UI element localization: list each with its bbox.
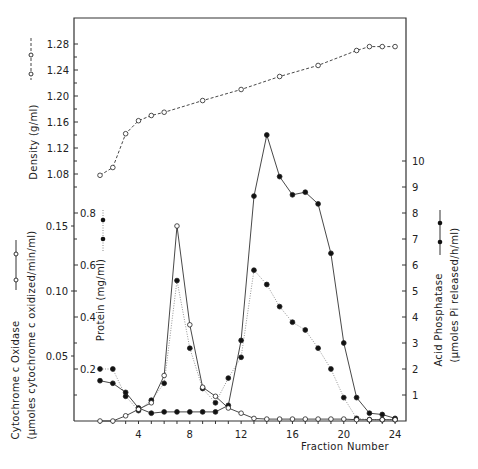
acid-phosphatase-marker [290,192,295,197]
density-marker [367,44,372,49]
acid-tick-label: 7 [412,234,418,245]
density-marker [98,173,103,178]
protein-tick-label: 0.6 [80,260,96,271]
cytochrome-marker [316,417,321,422]
cytochrome-marker [290,417,295,422]
cytochrome-marker [162,373,167,378]
protein-axis-title: Protein (mg/ml) [95,259,106,342]
protein-marker [226,376,231,381]
cytochrome-legend-marker [14,278,18,282]
x-tick-label: 12 [235,429,248,440]
plot-frame [74,18,406,421]
density-tick-label: 1.20 [47,91,69,102]
density-marker [149,113,154,118]
acid-phosphatase-marker [213,410,218,415]
density-marker [136,118,141,123]
cytochrome-marker [303,417,308,422]
protein-marker [213,400,218,405]
fractionation-chart: 48121620241.081.121.161.201.241.280.050.… [0,0,478,469]
density-marker [162,110,167,115]
acid-phosphatase-marker [329,251,334,256]
protein-line [100,270,395,420]
density-marker [239,87,244,92]
density-marker [111,165,116,170]
protein-marker [316,346,321,351]
plot-border [74,18,406,421]
acid-phosphatase-marker [303,190,308,195]
x-axis-title: Fraction Number [301,441,389,452]
acid-phosphatase-marker [123,390,128,395]
cytochrome-marker [239,411,244,416]
cytochrome-marker [329,417,334,422]
acid-phosphatase-line [100,135,395,418]
x-tick-label: 24 [389,429,402,440]
protein-marker [187,346,192,351]
acid-phosphatase-legend-marker [438,240,443,245]
density-line [100,47,395,176]
acid-phosphatase-marker [367,411,372,416]
density-tick-label: 1.28 [47,39,69,50]
cytochrome-marker [188,323,193,328]
density-legend-marker [29,72,33,76]
acid-phosphatase-marker [316,202,321,207]
chart-canvas: 48121620241.081.121.161.201.241.280.050.… [0,0,478,469]
protein-marker [329,367,334,372]
cytochrome-marker [213,394,218,399]
density-tick-label: 1.24 [47,65,69,76]
acid-tick-label: 4 [412,312,418,323]
protein-legend-marker [101,237,106,242]
cytochrome-marker [380,417,385,422]
acid-phosphatase-marker [98,378,103,383]
cytochrome-marker [200,385,205,390]
density-marker [354,48,359,53]
protein-marker [162,381,167,386]
protein-marker [303,328,308,333]
cytochrome-axis-title: Cytochrome c Oxidase [10,321,21,440]
density-marker [200,98,205,103]
cytochrome-marker [136,407,141,412]
protein-marker [341,395,346,400]
x-tick-label: 4 [135,429,141,440]
density-marker [277,74,282,79]
x-tick-label: 8 [187,429,193,440]
protein-marker [264,282,269,287]
protein-marker [252,268,257,273]
acid-phosphatase-marker [341,341,346,346]
cytochrome-marker [175,224,180,229]
acid-phosphatase-marker [149,411,154,416]
acid-phosphatase-marker [187,410,192,415]
data-series [98,44,398,423]
acid-phosphatase-marker [277,174,282,179]
x-tick-label: 16 [286,429,299,440]
protein-tick-label: 0.8 [80,208,96,219]
acid-phosphatase-marker [264,133,269,138]
cytochrome-marker [393,417,398,422]
acid-phosphatase-marker [175,410,180,415]
protein-marker [277,304,282,309]
acid-tick-label: 10 [412,156,425,167]
protein-marker [290,320,295,325]
cytochrome-marker [149,401,154,406]
acid-phosphatase-axis-units: (µmoles Pi released/h/ml) [449,227,460,362]
density-tick-label: 1.08 [47,169,69,180]
protein-marker [239,355,244,360]
acid-tick-label: 2 [412,364,418,375]
cytochrome-line [100,226,395,421]
density-legend-marker [29,53,33,57]
acid-phosphatase-legend-marker [438,221,443,226]
acid-phosphatase-marker [354,395,359,400]
protein-tick-label: 0.2 [80,364,96,375]
protein-marker [110,367,115,372]
protein-marker [175,278,180,283]
acid-phosphatase-marker [110,381,115,386]
acid-tick-label: 5 [412,286,418,297]
acid-tick-label: 1 [412,390,418,401]
density-marker [380,44,385,49]
density-marker [123,131,128,136]
density-tick-label: 1.16 [47,117,69,128]
cytochrome-marker [226,406,231,411]
cytochrome-marker [123,414,128,419]
cytochrome-tick-label: 0.05 [46,351,68,362]
acid-phosphatase-marker [200,410,205,415]
acid-tick-label: 8 [412,208,418,219]
